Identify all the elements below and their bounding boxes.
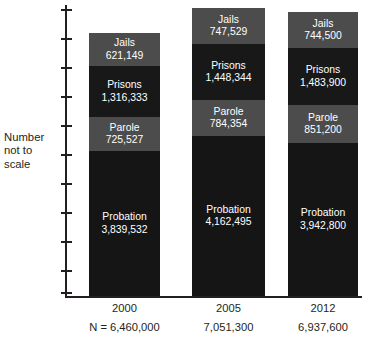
- y-axis-tick: [61, 241, 72, 243]
- y-axis-tick: [61, 270, 72, 272]
- bar-segment-parole: Parole725,527: [89, 117, 160, 151]
- bar-segment-parole: Parole851,200: [288, 105, 358, 143]
- stacked-bar: Jails621,149Prisons1,316,333Parole725,52…: [89, 33, 160, 296]
- total-population-label: N = 6,460,000: [73, 321, 176, 333]
- y-axis-tick: [61, 212, 72, 214]
- x-axis-year-label: 2012: [288, 302, 358, 314]
- segment-value: 1,448,344: [205, 72, 251, 84]
- segment-label: Probation: [206, 204, 250, 216]
- segment-label: Jails: [114, 37, 135, 49]
- y-axis-caption-line-3: scale: [4, 158, 62, 171]
- segment-value: 744,500: [304, 30, 342, 42]
- bar-segment-jails: Jails621,149: [89, 33, 160, 66]
- segment-label: Parole: [308, 112, 338, 124]
- y-axis-tick: [61, 183, 72, 185]
- x-axis-year-label: 2005: [192, 302, 265, 314]
- y-axis-tick: [61, 154, 72, 156]
- y-axis-tick: [61, 38, 72, 40]
- y-axis-tick: [61, 292, 72, 294]
- segment-label: Probation: [301, 207, 345, 219]
- y-axis-tick: [61, 67, 72, 69]
- segment-value: 4,162,495: [205, 216, 251, 228]
- y-axis-line: [65, 5, 67, 297]
- segment-value: 725,527: [106, 134, 144, 146]
- bar-segment-prisons: Prisons1,483,900: [288, 48, 358, 105]
- bar-segment-probation: Probation3,839,532: [89, 151, 160, 296]
- segment-value: 784,354: [210, 118, 248, 130]
- segment-value: 747,529: [210, 26, 248, 38]
- bar-segment-parole: Parole784,354: [192, 100, 265, 136]
- y-axis-tick: [61, 125, 72, 127]
- y-axis-caption-line-2: not to: [4, 144, 62, 157]
- y-axis-caption: Number not to scale: [4, 131, 62, 171]
- segment-value: 621,149: [106, 50, 144, 62]
- bar-segment-probation: Probation3,942,800: [288, 143, 358, 296]
- y-axis-caption-line-1: Number: [4, 131, 62, 144]
- bar-segment-probation: Probation4,162,495: [192, 136, 265, 296]
- segment-label: Parole: [109, 122, 139, 134]
- segment-label: Prisons: [306, 64, 341, 76]
- bar-segment-jails: Jails747,529: [192, 8, 265, 44]
- y-axis-tick: [61, 9, 72, 11]
- segment-label: Parole: [213, 106, 243, 118]
- y-axis-tick: [61, 96, 72, 98]
- segment-label: Jails: [218, 14, 239, 26]
- segment-value: 3,839,532: [101, 224, 147, 236]
- stacked-bar: Jails747,529Prisons1,448,344Parole784,35…: [192, 8, 265, 296]
- total-population-label: 6,937,600: [272, 321, 372, 333]
- segment-value: 3,942,800: [300, 220, 346, 232]
- segment-label: Prisons: [211, 60, 246, 72]
- total-population-label: 7,051,300: [176, 321, 281, 333]
- segment-value: 1,483,900: [300, 77, 346, 89]
- x-axis-year-label: 2000: [89, 302, 160, 314]
- segment-value: 851,200: [304, 124, 342, 136]
- segment-value: 1,316,333: [101, 92, 147, 104]
- segment-label: Jails: [313, 18, 334, 30]
- bar-segment-prisons: Prisons1,316,333: [89, 66, 160, 117]
- x-axis-baseline: [65, 296, 362, 298]
- stacked-bar: Jails744,500Prisons1,483,900Parole851,20…: [288, 12, 358, 296]
- segment-label: Prisons: [107, 79, 142, 91]
- segment-label: Probation: [102, 211, 146, 223]
- stacked-bar-chart: Number not to scale Jails621,149Prisons1…: [0, 0, 372, 340]
- bar-segment-jails: Jails744,500: [288, 12, 358, 48]
- bar-segment-prisons: Prisons1,448,344: [192, 44, 265, 100]
